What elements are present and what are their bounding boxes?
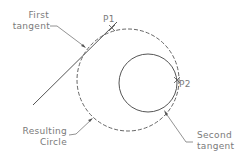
resulting-circle-leader <box>69 119 92 135</box>
first-tangent-label-line2: tangent <box>13 21 51 31</box>
resulting-circle-label-line2: Circle <box>40 137 67 147</box>
p1-marker-icon <box>109 25 115 31</box>
p2-label: P2 <box>179 79 191 89</box>
first-tangent-leader <box>50 26 85 47</box>
first-tangent-line <box>33 22 117 105</box>
diagram-canvas: First tangent P1 P2 Resulting Circle Sec… <box>0 0 244 162</box>
second-tangent-leader <box>165 112 193 142</box>
resulting-circle <box>77 29 179 131</box>
p1-label: P1 <box>103 14 115 24</box>
existing-circle <box>119 54 177 112</box>
resulting-circle-label-line1: Resulting <box>23 126 67 136</box>
second-tangent-label-line2: tangent <box>197 141 235 151</box>
second-tangent-label-line1: Second <box>197 130 232 140</box>
first-tangent-label-line1: First <box>29 10 50 20</box>
resulting-circle-arrowhead-icon <box>88 118 93 122</box>
